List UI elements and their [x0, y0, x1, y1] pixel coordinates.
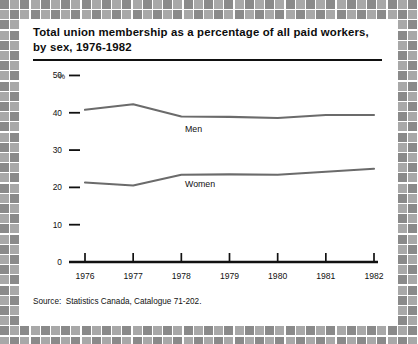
frame-square [347, 0, 356, 9]
frame-square [10, 255, 19, 264]
series-label-men: Men [185, 124, 202, 134]
frame-square [398, 153, 407, 162]
frame-square [224, 337, 233, 344]
frame-square [184, 0, 193, 9]
frame-square [82, 0, 91, 9]
frame-square [194, 10, 203, 19]
frame-square [133, 337, 142, 344]
frame-square [286, 337, 295, 344]
frame-square [112, 0, 121, 9]
frame-square [0, 112, 9, 121]
frame-square [408, 92, 417, 101]
frame-square [71, 337, 80, 344]
frame-square [388, 326, 397, 335]
frame-square [153, 0, 162, 9]
frame-square [296, 337, 305, 344]
frame-square [0, 41, 9, 50]
x-tick-label: 1977 [113, 271, 153, 281]
frame-square [398, 235, 407, 244]
frame-square [0, 235, 9, 244]
frame-square [408, 173, 417, 182]
frame-square [92, 326, 101, 335]
frame-square [61, 10, 70, 19]
frame-square [0, 214, 9, 223]
frame-square [10, 92, 19, 101]
frame-square [408, 61, 417, 70]
frame-square [265, 10, 274, 19]
frame-square [398, 92, 407, 101]
frame-square [326, 10, 335, 19]
frame-square [398, 296, 407, 305]
frame-square [0, 255, 9, 264]
frame-square [0, 61, 9, 70]
y-tick-label: 0 [44, 257, 62, 267]
frame-square [10, 143, 19, 152]
frame-square [10, 51, 19, 60]
frame-square [51, 337, 60, 344]
x-tick-label: 1981 [306, 271, 346, 281]
series-line-men [85, 104, 374, 118]
frame-square [286, 326, 295, 335]
frame-square [408, 41, 417, 50]
frame-square [10, 326, 19, 335]
frame-square [10, 61, 19, 70]
frame-square [0, 306, 9, 315]
frame-square [0, 245, 9, 254]
frame-square [0, 153, 9, 162]
frame-square [0, 224, 9, 233]
frame-square [10, 296, 19, 305]
frame-square [10, 102, 19, 111]
frame-square [408, 133, 417, 142]
frame-square [367, 326, 376, 335]
frame-square [408, 265, 417, 274]
frame-square [0, 286, 9, 295]
frame-square [0, 122, 9, 131]
frame-square [398, 173, 407, 182]
frame-square [235, 337, 244, 344]
frame-square [102, 10, 111, 19]
frame-square [102, 0, 111, 9]
frame-square [408, 112, 417, 121]
frame-square [10, 214, 19, 223]
frame-square [31, 10, 40, 19]
frame-square [133, 326, 142, 335]
frame-square [398, 245, 407, 254]
frame-square [347, 10, 356, 19]
frame-square [10, 10, 19, 19]
frame-square [245, 326, 254, 335]
frame-square [408, 214, 417, 223]
frame-square [408, 296, 417, 305]
frame-square [163, 337, 172, 344]
frame-square [357, 0, 366, 9]
frame-square [398, 82, 407, 91]
frame-square [408, 235, 417, 244]
frame-square [82, 10, 91, 19]
frame-square [0, 326, 9, 335]
frame-square [51, 10, 60, 19]
frame-square [92, 0, 101, 9]
frame-square [408, 204, 417, 213]
frame-square [398, 337, 407, 344]
frame-square [398, 112, 407, 121]
frame-square [194, 337, 203, 344]
frame-square [398, 326, 407, 335]
frame-square [398, 0, 407, 9]
frame-square [408, 82, 417, 91]
frame-square [275, 10, 284, 19]
frame-square [0, 194, 9, 203]
frame-square [0, 275, 9, 284]
frame-square [204, 337, 213, 344]
frame-square [408, 194, 417, 203]
frame-square [10, 20, 19, 29]
frame-square [0, 102, 9, 111]
frame-square [398, 214, 407, 223]
frame-square [398, 306, 407, 315]
frame-square [398, 61, 407, 70]
frame-square [31, 326, 40, 335]
frame-square [173, 10, 182, 19]
frame-square [112, 326, 121, 335]
frame-square [357, 326, 366, 335]
frame-square [0, 316, 9, 325]
frame-square [173, 0, 182, 9]
frame-square [316, 10, 325, 19]
